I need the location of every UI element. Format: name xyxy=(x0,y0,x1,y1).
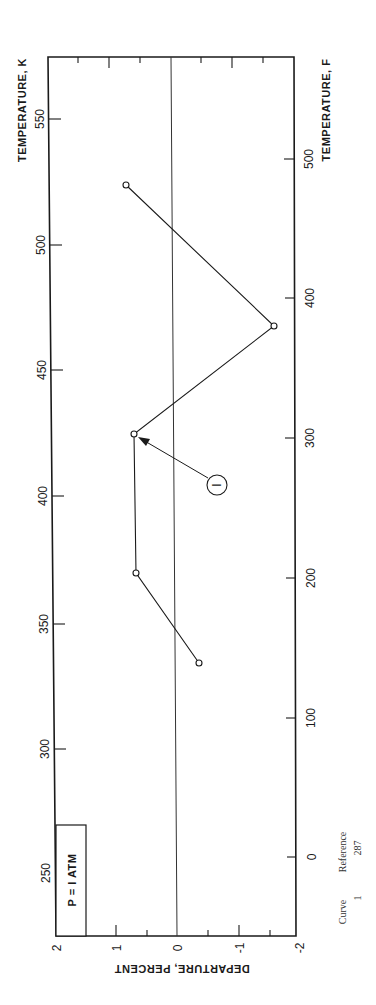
data-point xyxy=(123,182,129,188)
data-point xyxy=(196,660,202,666)
f-tick-200: 200 xyxy=(304,568,318,588)
dep-tick-0: 0 xyxy=(171,944,185,951)
legend-curve-header: Curve xyxy=(337,899,348,924)
bottom-ticks xyxy=(116,925,270,936)
dep-tick-2: 2 xyxy=(50,944,64,951)
k-tick-550: 550 xyxy=(33,109,47,129)
departure-axis-title: DEPARTURE, PERCENT xyxy=(114,963,249,975)
legend-reference-header: Reference xyxy=(337,831,348,872)
k-tick-250: 250 xyxy=(39,863,53,883)
legend-reference-value: 287 xyxy=(352,841,363,856)
legend-curve-value: 1 xyxy=(352,896,363,901)
chart-canvas: 550 500 450 400 350 300 250 TEMPERATURE,… xyxy=(0,0,376,1005)
dep-tick-minus-2: -2 xyxy=(293,942,307,953)
zero-line xyxy=(171,57,177,936)
departure-axis-labels: 2 1 0 -1 -2 xyxy=(50,942,307,953)
f-tick-300: 300 xyxy=(303,428,317,448)
f-tick-100: 100 xyxy=(304,708,318,728)
k-tick-300: 300 xyxy=(38,739,52,759)
data-point xyxy=(131,431,137,437)
data-point xyxy=(133,570,139,576)
f-tick-0: 0 xyxy=(305,853,319,860)
f-axis-title: TEMPERATURE, F xyxy=(320,59,332,162)
curve-label-text: I xyxy=(210,483,224,486)
data-point xyxy=(271,323,277,329)
f-axis-labels: 500 400 300 200 100 0 xyxy=(302,149,319,861)
f-tick-500: 500 xyxy=(302,149,316,169)
k-tick-500: 500 xyxy=(34,235,48,255)
k-tick-350: 350 xyxy=(37,614,51,634)
legend-table: Curve Reference 1 287 xyxy=(337,831,363,924)
dep-tick-1: 1 xyxy=(110,944,124,951)
k-tick-400: 400 xyxy=(36,486,50,506)
pressure-label: P = I ATM xyxy=(66,854,78,907)
curve-1-line xyxy=(126,185,274,663)
k-axis-title: TEMPERATURE, K xyxy=(16,58,28,162)
callout-arrow-line xyxy=(143,440,208,478)
k-tick-450: 450 xyxy=(35,360,49,380)
top-ticks xyxy=(78,57,263,68)
callout-arrowhead-icon xyxy=(138,437,150,446)
f-tick-400: 400 xyxy=(303,288,317,308)
dep-tick-minus-1: -1 xyxy=(233,942,247,953)
